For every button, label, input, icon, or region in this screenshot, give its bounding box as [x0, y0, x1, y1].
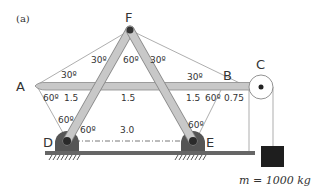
angle-F-left: 30º [91, 55, 107, 65]
angle-D-right: 60º [80, 125, 96, 135]
mass-block [261, 146, 284, 167]
pin-F [127, 27, 134, 34]
beam-AB [35, 82, 252, 90]
mass-label: m = 1000 kg [239, 174, 311, 187]
angle-B-top: 30º [187, 72, 203, 82]
angle-F-mid: 60º [123, 55, 139, 65]
label-C: C [256, 57, 265, 72]
ground-hatch-E [175, 155, 206, 160]
angle-F-right: 30º [150, 55, 166, 65]
pulley-axle [259, 85, 264, 90]
pin-D [63, 137, 71, 145]
label-F: F [125, 10, 132, 25]
ground-hatch-D [49, 155, 80, 160]
panel-label: (a) [16, 13, 30, 24]
angle-B-bottom: 60º [205, 93, 221, 103]
truss-pulley-diagram: (a) F A B C D E 30º 60º 30º 30º 60º 30º … [0, 0, 322, 195]
angle-D-top: 60º [58, 115, 74, 125]
pin-E [189, 137, 197, 145]
label-E: E [206, 135, 214, 150]
length-mid-seg: 1.5 [121, 93, 135, 103]
ground-bar [45, 151, 255, 155]
label-D: D [43, 135, 53, 150]
angle-A-bottom: 60º [43, 93, 59, 103]
length-DE: 3.0 [120, 125, 135, 135]
angle-E-top: 60º [188, 120, 204, 130]
length-B-ext: 0.75 [224, 93, 244, 103]
length-B-seg: 1.5 [186, 93, 200, 103]
length-A-seg: 1.5 [64, 93, 78, 103]
label-B: B [223, 68, 232, 83]
angle-A-top: 30º [61, 70, 77, 80]
label-A: A [16, 79, 25, 94]
